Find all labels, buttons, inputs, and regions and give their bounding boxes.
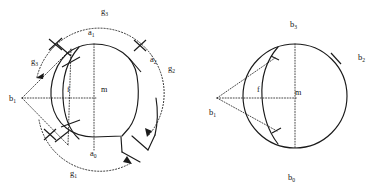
label-b0: b0 [288,172,295,183]
label-f: f [67,85,70,94]
label-g3-top: g3 [101,6,108,17]
label-m: m [101,85,108,94]
cam-outline [51,44,138,137]
label-f: f [257,85,260,94]
outer-arc-g1 [39,120,131,171]
label-b1: b1 [209,107,216,118]
inner-arc-f [262,47,278,144]
outer-arc-g2 [148,56,164,136]
tick-tangency-lower [272,128,281,133]
notch-outer-edge [132,136,148,150]
label-g3-left: g3 [31,56,38,67]
label-b3: b3 [290,19,297,30]
tick-far-upper-left [57,44,71,56]
label-a2: a2 [150,54,157,65]
label-a1: a1 [88,27,95,38]
label-m: m [295,88,302,97]
right-panel-labels: b3 b2 b1 b0 f m [209,19,365,183]
tick-far-lower-left [55,131,69,142]
notch-upper-edge [121,137,122,152]
label-g1-bottom: g1 [70,168,77,179]
label-b2: b2 [358,52,365,63]
tick-b2 [331,53,341,64]
label-a0: a0 [90,148,97,159]
notch-return-edge [148,135,155,150]
tick-tangency-upper [271,56,279,60]
figure-canvas: g3 a1 a2 g2 g3 b1 a0 g1 f m [0,0,378,189]
notch-arc-edge [155,98,157,135]
left-diagram: g3 a1 a2 g2 g3 b1 a0 g1 f m [0,0,189,189]
label-g2-right: g2 [168,63,175,74]
right-diagram: b3 b2 b1 b0 f m [189,0,378,189]
left-panel-labels: g3 a1 a2 g2 g3 b1 a0 g1 f m [9,6,175,179]
tick-lower-left [61,120,80,127]
label-b1: b1 [9,93,16,104]
